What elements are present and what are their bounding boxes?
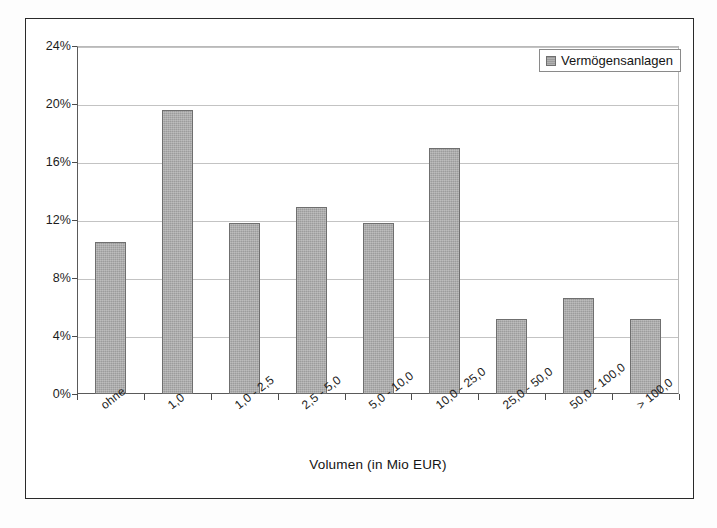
bar bbox=[229, 223, 260, 394]
figure-frame: 0%4%8%12%16%20%24% ohne1,01,0 - 2,52,5 -… bbox=[25, 18, 694, 499]
bars-layer bbox=[77, 46, 679, 394]
y-tick-label: 12% bbox=[25, 213, 71, 227]
bar bbox=[429, 148, 460, 395]
y-tick-label: 8% bbox=[25, 271, 71, 285]
legend-swatch-icon bbox=[546, 56, 556, 66]
bar-chart: 0%4%8%12%16%20%24% ohne1,01,0 - 2,52,5 -… bbox=[26, 19, 693, 498]
y-tick-label: 16% bbox=[25, 155, 71, 169]
bar bbox=[563, 298, 594, 394]
y-tick-label: 4% bbox=[25, 329, 71, 343]
x-axis-title: Volumen (in Mio EUR) bbox=[77, 457, 679, 472]
page-root: 0%4%8%12%16%20%24% ohne1,01,0 - 2,52,5 -… bbox=[0, 0, 717, 528]
x-tick-mark bbox=[679, 394, 680, 400]
chart-legend: Vermögensanlagen bbox=[539, 49, 681, 72]
y-tick-label: 24% bbox=[25, 39, 71, 53]
bar bbox=[162, 110, 193, 394]
bar bbox=[95, 242, 126, 394]
y-tick-label: 0% bbox=[25, 387, 71, 401]
x-axis-labels: ohne1,01,0 - 2,52,5 - 5,05,0 - 10,010,0 … bbox=[77, 395, 679, 465]
bar bbox=[296, 207, 327, 394]
y-axis: 0%4%8%12%16%20%24% bbox=[26, 46, 71, 394]
y-tick-label: 20% bbox=[25, 97, 71, 111]
bar bbox=[363, 223, 394, 394]
legend-label: Vermögensanlagen bbox=[561, 53, 673, 68]
